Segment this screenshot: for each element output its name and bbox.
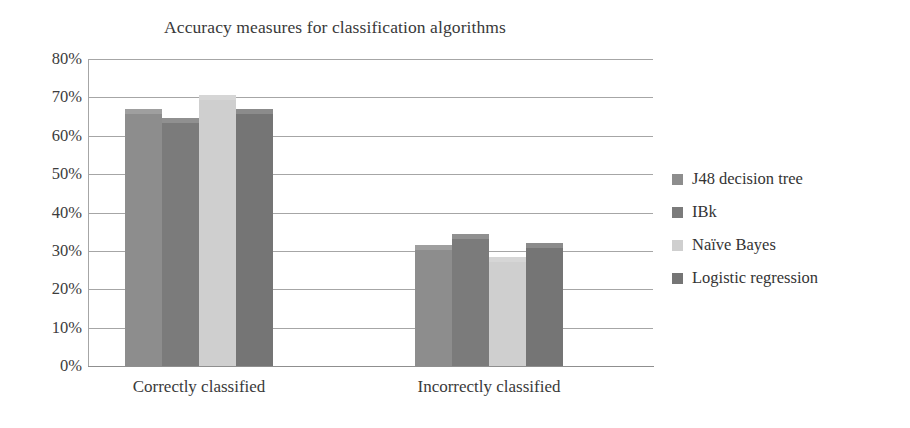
bar: [526, 243, 563, 366]
y-axis-tick-label: 60%: [8, 128, 82, 145]
chart-legend: J48 decision treeIBkNaïve BayesLogistic …: [672, 163, 904, 295]
bar: [162, 118, 199, 366]
bar: [236, 109, 273, 366]
y-axis-tick-label: 0%: [8, 358, 82, 375]
y-axis-tick-label: 70%: [8, 89, 82, 106]
legend-item-label: Logistic regression: [692, 270, 818, 287]
bar-top-highlight: [236, 109, 273, 114]
legend-swatch-icon: [672, 273, 683, 284]
y-axis-tick-labels: 80%70%60%50%40%30%20%10%0%: [0, 0, 82, 428]
legend-item-label: IBk: [692, 204, 717, 221]
bar: [125, 109, 162, 366]
bar: [415, 245, 452, 366]
legend-swatch-icon: [672, 174, 683, 185]
y-axis-tick-label: 80%: [8, 51, 82, 68]
x-axis-category-label: Incorrectly classified: [379, 377, 599, 397]
chart-title: Accuracy measures for classification alg…: [0, 17, 670, 38]
gridline: [88, 97, 653, 98]
bar-top-highlight: [199, 95, 236, 100]
x-axis-category-label: Correctly classified: [89, 377, 309, 397]
bar-top-highlight: [415, 245, 452, 250]
legend-item[interactable]: Logistic regression: [672, 262, 904, 295]
bar-top-highlight: [526, 243, 563, 248]
y-axis-tick-label: 10%: [8, 320, 82, 337]
legend-item-label: J48 decision tree: [692, 171, 803, 188]
legend-item[interactable]: J48 decision tree: [672, 163, 904, 196]
legend-item-label: Naïve Bayes: [692, 237, 776, 254]
bar: [452, 234, 489, 366]
bar-top-highlight: [489, 257, 526, 262]
legend-item[interactable]: IBk: [672, 196, 904, 229]
legend-swatch-icon: [672, 207, 683, 218]
y-axis-tick-label: 50%: [8, 166, 82, 183]
bar-top-highlight: [452, 234, 489, 239]
bar-chart: Accuracy measures for classification alg…: [0, 0, 910, 428]
bar-top-highlight: [162, 118, 199, 123]
y-axis-tick-label: 40%: [8, 205, 82, 222]
legend-item[interactable]: Naïve Bayes: [672, 229, 904, 262]
bar-top-highlight: [125, 109, 162, 114]
legend-swatch-icon: [672, 240, 683, 251]
gridline: [88, 59, 653, 60]
plot-area: [88, 59, 653, 366]
bar: [199, 95, 236, 366]
y-axis-tick-label: 20%: [8, 281, 82, 298]
x-axis-line: [88, 366, 654, 367]
bar: [489, 257, 526, 366]
y-axis-tick-label: 30%: [8, 243, 82, 260]
